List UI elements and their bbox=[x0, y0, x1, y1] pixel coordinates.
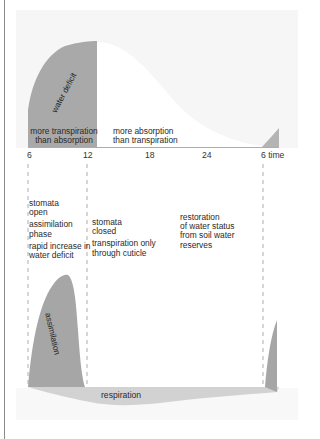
night-line4: reserves bbox=[180, 241, 234, 250]
more-transpiration-label: more transpiration than absorption bbox=[30, 127, 98, 145]
morning-line6: water deficit bbox=[29, 251, 90, 260]
time-tick-18: 18 bbox=[145, 150, 155, 160]
morning-line4: phase bbox=[29, 230, 90, 239]
night-phase-text: restoration of water status from soil wa… bbox=[180, 213, 234, 250]
time-tick-24: 24 bbox=[202, 150, 212, 160]
afternoon-phase-text: stomata closed transpiration only throug… bbox=[92, 218, 156, 258]
more-absorption-label: more absorption than transpiration bbox=[113, 127, 178, 145]
time-tick-6-next: 6 time bbox=[261, 150, 284, 160]
afternoon-line4: through cuticle bbox=[92, 249, 156, 258]
morning-phase-text: stomata open assimilation phase rapid in… bbox=[29, 199, 90, 260]
respiration-label: respiration bbox=[101, 391, 141, 400]
more-absorption-line2: than transpiration bbox=[113, 136, 178, 145]
afternoon-line2: closed bbox=[92, 227, 156, 236]
morning-line2: open bbox=[29, 208, 90, 217]
more-transpiration-line2: than absorption bbox=[30, 136, 98, 145]
time-tick-12: 12 bbox=[83, 150, 93, 160]
time-tick-6: 6 bbox=[27, 150, 32, 160]
assimilation-rise-next-day bbox=[265, 320, 277, 392]
